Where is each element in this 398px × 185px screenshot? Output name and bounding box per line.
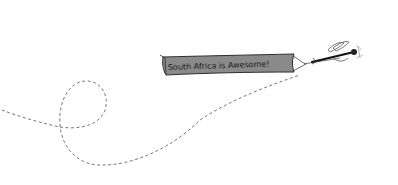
illustration-svg: South Africa is Awesome! <box>0 0 398 185</box>
illustration-canvas: South Africa is Awesome! <box>0 0 398 185</box>
banner: South Africa is Awesome! <box>160 54 294 75</box>
plane-icon <box>312 41 363 64</box>
dashed-flight-trail <box>2 75 300 165</box>
